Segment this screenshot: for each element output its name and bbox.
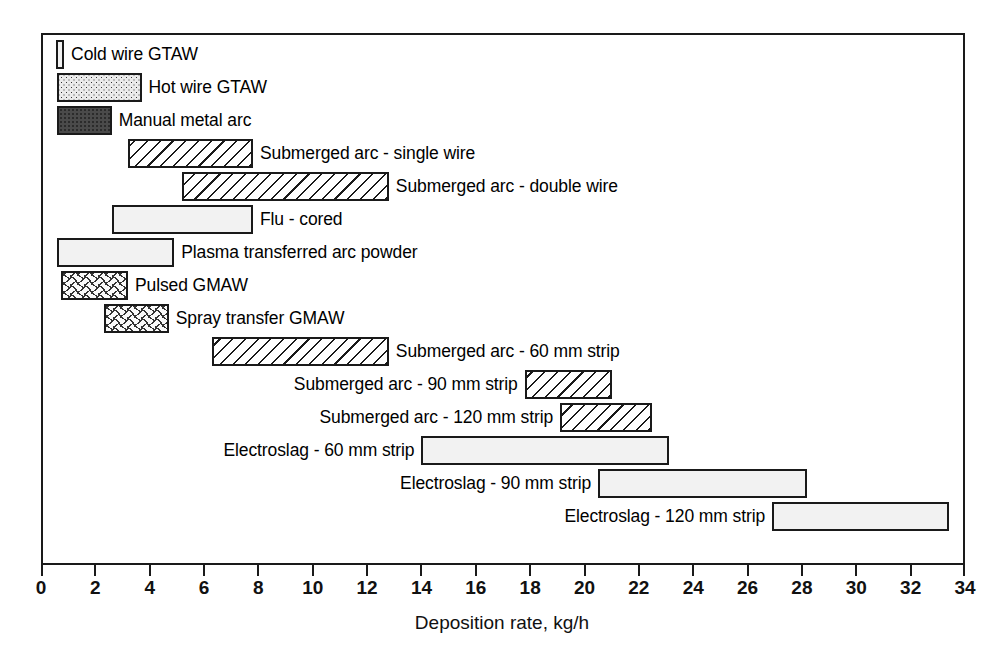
bar-flu-cored xyxy=(112,205,253,234)
bar-row: Electroslag - 90 mm strip xyxy=(41,467,965,500)
axis-tick-label: 30 xyxy=(846,577,867,599)
bar-row: Manual metal arc xyxy=(41,104,965,137)
axis-tick xyxy=(149,565,151,576)
axis-tick xyxy=(638,565,640,576)
axis-tick xyxy=(584,565,586,576)
bar-row: Hot wire GTAW xyxy=(41,71,965,104)
axis-tick xyxy=(910,565,912,576)
axis-tick-label: 24 xyxy=(683,577,704,599)
bars-layer: Cold wire GTAWHot wire GTAWManual metal … xyxy=(41,33,965,565)
bar-row: Submerged arc - single wire xyxy=(41,137,965,170)
axis-tick-label: 20 xyxy=(574,577,595,599)
bar-label: Cold wire GTAW xyxy=(71,38,198,71)
bar-plasma-transferred-arc-powder xyxy=(57,238,174,267)
axis-tick-label: 12 xyxy=(357,577,378,599)
axis-tick-label: 10 xyxy=(302,577,323,599)
bar-row: Flu - cored xyxy=(41,203,965,236)
axis-tick xyxy=(963,565,965,576)
axis-tick-label: 14 xyxy=(411,577,432,599)
axis-tick-label: 18 xyxy=(520,577,541,599)
bar-row: Spray transfer GMAW xyxy=(41,302,965,335)
bar-row: Pulsed GMAW xyxy=(41,269,965,302)
bar-hot-wire-gtaw xyxy=(57,73,141,102)
bar-label: Flu - cored xyxy=(260,203,343,236)
axis-tick-label: 0 xyxy=(36,577,47,599)
bar-label: Plasma transferred arc powder xyxy=(181,236,417,269)
bar-label: Electroslag - 90 mm strip xyxy=(400,467,591,500)
axis-tick xyxy=(801,565,803,576)
bar-cold-wire-gtaw xyxy=(56,40,64,69)
axis-tick xyxy=(420,565,422,576)
bar-row: Submerged arc - 60 mm strip xyxy=(41,335,965,368)
axis-tick xyxy=(94,565,96,576)
axis-tick xyxy=(855,565,857,576)
axis-tick xyxy=(312,565,314,576)
bar-row: Cold wire GTAW xyxy=(41,38,965,71)
axis-tick-label: 22 xyxy=(628,577,649,599)
bar-label: Manual metal arc xyxy=(119,104,252,137)
axis-tick-label: 28 xyxy=(791,577,812,599)
axis-tick xyxy=(203,565,205,576)
x-axis: 0246810121416182022242628303234 xyxy=(41,565,965,577)
axis-tick-label: 16 xyxy=(465,577,486,599)
bar-submerged-arc-60-mm-strip xyxy=(212,337,389,366)
bar-label: Submerged arc - 60 mm strip xyxy=(396,335,620,368)
bar-label: Spray transfer GMAW xyxy=(176,302,345,335)
bar-electroslag-120-mm-strip xyxy=(772,502,949,531)
bar-electroslag-60-mm-strip xyxy=(421,436,668,465)
bar-submerged-arc-120-mm-strip xyxy=(560,403,652,432)
bar-row: Electroslag - 120 mm strip xyxy=(41,500,965,533)
deposition-rate-chart: Cold wire GTAWHot wire GTAWManual metal … xyxy=(0,0,1004,655)
axis-tick xyxy=(257,565,259,576)
axis-tick xyxy=(529,565,531,576)
bar-pulsed-gmaw xyxy=(61,271,128,300)
bar-electroslag-90-mm-strip xyxy=(598,469,807,498)
bar-label: Electroslag - 120 mm strip xyxy=(564,500,765,533)
bar-label: Submerged arc - single wire xyxy=(260,137,475,170)
axis-tick xyxy=(692,565,694,576)
bar-submerged-arc-double-wire xyxy=(182,172,389,201)
bar-submerged-arc-90-mm-strip xyxy=(525,370,612,399)
x-axis-title: Deposition rate, kg/h xyxy=(0,612,1004,634)
axis-tick xyxy=(475,565,477,576)
bar-label: Submerged arc - 90 mm strip xyxy=(294,368,518,401)
bar-label: Hot wire GTAW xyxy=(149,71,267,104)
axis-tick-label: 8 xyxy=(253,577,264,599)
axis-tick-label: 26 xyxy=(737,577,758,599)
bar-row: Submerged arc - 90 mm strip xyxy=(41,368,965,401)
axis-tick-label: 32 xyxy=(900,577,921,599)
axis-tick xyxy=(366,565,368,576)
bar-submerged-arc-single-wire xyxy=(128,139,253,168)
bar-label: Electroslag - 60 mm strip xyxy=(223,434,414,467)
axis-tick xyxy=(747,565,749,576)
bar-spray-transfer-gmaw xyxy=(104,304,169,333)
bar-label: Submerged arc - double wire xyxy=(396,170,618,203)
bar-label: Pulsed GMAW xyxy=(135,269,248,302)
axis-tick-label: 4 xyxy=(144,577,155,599)
axis-tick xyxy=(41,565,43,576)
bar-manual-metal-arc xyxy=(57,106,111,135)
axis-tick-label: 6 xyxy=(199,577,210,599)
axis-tick-label: 2 xyxy=(90,577,101,599)
axis-tick-label: 34 xyxy=(954,577,975,599)
bar-row: Submerged arc - 120 mm strip xyxy=(41,401,965,434)
bar-label: Submerged arc - 120 mm strip xyxy=(320,401,554,434)
bar-row: Electroslag - 60 mm strip xyxy=(41,434,965,467)
bar-row: Plasma transferred arc powder xyxy=(41,236,965,269)
bar-row: Submerged arc - double wire xyxy=(41,170,965,203)
